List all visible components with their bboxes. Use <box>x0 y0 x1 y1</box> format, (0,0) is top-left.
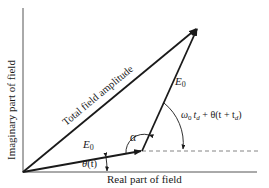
phase-label: ω0td + θ(t + td) <box>181 109 242 122</box>
phasor-diagram: Imaginary part of field Real part of fie… <box>0 0 269 188</box>
theta-label: θ(t) <box>82 158 98 170</box>
theta-angle-arc <box>106 157 107 171</box>
vector-second-e0 <box>142 29 197 151</box>
x-axis-label: Real part of field <box>107 173 182 185</box>
alpha-label: α <box>130 130 137 144</box>
first-e0-label: E0 <box>82 138 94 152</box>
y-axis-label: Imaginary part of field <box>5 60 17 160</box>
total-field-label: Total field amplitude <box>60 63 135 128</box>
second-e0-label: E0 <box>174 75 186 89</box>
vector-total-field <box>23 29 196 172</box>
